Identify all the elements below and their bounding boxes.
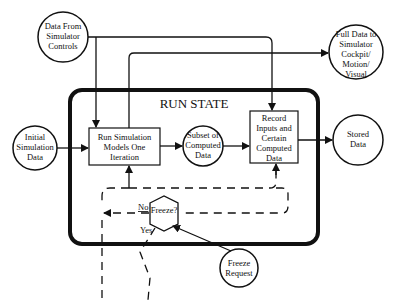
- node-subset-computed-data: Subset of Computed Data: [183, 126, 223, 166]
- svg-text:Run Simulation: Run Simulation: [98, 132, 152, 142]
- node-freeze-request: Freeze Request: [220, 249, 258, 287]
- svg-text:Computed: Computed: [185, 140, 221, 150]
- svg-text:Initial: Initial: [25, 132, 46, 142]
- svg-text:Computed: Computed: [256, 143, 292, 153]
- svg-text:Freeze: Freeze: [228, 258, 251, 268]
- run-state-title: RUN STATE: [160, 96, 229, 111]
- svg-text:Subset of: Subset of: [187, 130, 219, 140]
- node-full-data-to-simulator: Full Data to Simulator Cockpit/ Motion/ …: [329, 25, 383, 79]
- svg-text:Data From: Data From: [45, 21, 82, 31]
- svg-text:Data: Data: [350, 139, 366, 149]
- svg-text:Full Data to: Full Data to: [336, 29, 377, 39]
- svg-text:Simulation: Simulation: [16, 142, 54, 152]
- svg-text:Certain: Certain: [261, 133, 287, 143]
- node-stored-data: Stored Data: [333, 115, 383, 165]
- edge-label-yes: Yes: [140, 225, 152, 235]
- svg-text:Inputs and: Inputs and: [256, 123, 292, 133]
- node-record-inputs: Record Inputs and Certain Computed Data: [250, 111, 298, 163]
- svg-text:Record: Record: [262, 113, 287, 123]
- svg-text:Visual: Visual: [345, 69, 367, 79]
- svg-text:Request: Request: [225, 268, 253, 278]
- node-initial-simulation-data: Initial Simulation Data: [13, 126, 57, 170]
- svg-text:Iteration: Iteration: [110, 152, 140, 162]
- edge-label-no: No: [138, 202, 148, 212]
- svg-text:Simulator: Simulator: [46, 31, 80, 41]
- svg-text:Data: Data: [266, 153, 282, 163]
- svg-text:Data: Data: [195, 150, 211, 160]
- svg-text:Simulator: Simulator: [339, 39, 373, 49]
- svg-text:Freeze?: Freeze?: [151, 205, 178, 215]
- node-data-from-controls: Data From Simulator Controls: [38, 12, 88, 62]
- svg-text:Models One: Models One: [104, 142, 146, 152]
- svg-text:Data: Data: [27, 152, 43, 162]
- node-run-simulation-models: Run Simulation Models One Iteration: [89, 128, 160, 165]
- run-state-diagram: RUN STATE Data From Simulator Controls F…: [0, 0, 394, 300]
- svg-text:Stored: Stored: [347, 129, 370, 139]
- svg-text:Cockpit/: Cockpit/: [341, 49, 371, 59]
- svg-text:Controls: Controls: [48, 41, 77, 51]
- svg-text:Motion/: Motion/: [342, 59, 370, 69]
